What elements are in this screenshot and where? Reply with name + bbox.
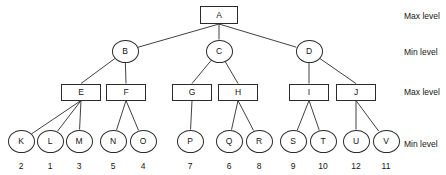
tree-node-label: J [354,88,358,97]
tree-node-label: T [320,137,325,146]
tree-edge-b-f [125,62,126,83]
tree-node-label: A [216,11,222,20]
tree-node-m: M [66,130,93,153]
tree-edge-a-d [219,24,296,47]
tree-edge-e-l [57,101,81,132]
tree-node-h: H [218,84,258,101]
tree-node-label: E [78,88,84,97]
tree-node-u: U [343,130,370,153]
tree-edge-c-h [225,61,238,83]
tree-edge-f-o [126,101,138,131]
leaf-value-u: 12 [342,162,370,171]
tree-node-label: D [306,47,312,56]
leaf-value-p: 7 [176,162,204,171]
tree-node-f: F [106,84,146,101]
tree-node-t: T [310,130,337,153]
leaf-value-s: 9 [279,162,307,171]
tree-node-k: K [8,130,35,153]
tree-node-c: C [206,40,233,63]
tree-edge-f-n [117,101,126,130]
tree-edge-h-q [232,101,238,130]
leaf-value-k: 2 [7,162,35,171]
tree-node-e: E [61,84,101,101]
tree-node-label: O [140,137,147,146]
tree-edge-b-e [81,59,115,84]
tree-node-label: P [187,137,193,146]
tree-node-d: D [296,40,323,63]
tree-edge-e-k [32,101,81,134]
leaf-value-v: 11 [372,162,400,171]
tree-edge-d-j [319,58,356,83]
tree-node-o: O [130,130,157,153]
tree-node-l: L [37,130,64,153]
level-label-1: Max level [404,12,440,21]
tree-node-v: V [373,130,400,153]
tree-node-label: I [308,88,310,97]
tree-node-label: R [256,137,262,146]
tree-node-b: B [112,40,139,63]
tree-node-label: S [290,137,296,146]
tree-node-label: V [383,137,389,146]
leaf-value-l: 1 [36,162,64,171]
tree-edge-i-t [309,101,319,130]
tree-node-n: N [100,130,127,153]
tree-edge-g-p [191,101,192,130]
tree-edge-h-r [238,101,254,131]
tree-node-label: K [18,137,24,146]
tree-edge-c-g [192,60,211,83]
tree-node-label: C [216,47,222,56]
tree-node-label: B [122,47,128,56]
tree-node-s: S [280,130,307,153]
tree-node-g: G [172,84,212,101]
tree-edge-a-b [138,24,219,47]
tree-node-label: G [189,88,196,97]
tree-node-label: F [123,88,128,97]
tree-edge-i-s [297,101,309,131]
level-label-4: Min level [404,140,438,149]
leaf-value-t: 10 [309,162,337,171]
tree-node-r: R [246,130,273,153]
level-label-2: Min level [404,48,438,57]
tree-node-j: J [336,84,376,101]
leaf-value-m: 3 [65,162,93,171]
tree-node-label: L [48,137,53,146]
tree-node-label: M [75,137,82,146]
tree-node-a: A [200,6,238,24]
tree-node-label: H [235,88,241,97]
tree-node-i: I [289,84,329,101]
min-max-heap-diagram: ABCDEFGHIJKLMNOPQRSTUV 213547689101211 M… [0,0,446,175]
tree-node-label: Q [226,137,233,146]
leaf-value-q: 6 [215,162,243,171]
level-label-3: Max level [404,88,440,97]
tree-node-q: Q [216,130,243,153]
tree-node-label: N [110,137,116,146]
leaf-value-n: 5 [99,162,127,171]
tree-node-label: U [353,137,359,146]
tree-edge-j-v [356,101,379,132]
tree-edge-e-m [80,101,81,130]
leaf-value-o: 4 [129,162,157,171]
leaf-value-r: 8 [245,162,273,171]
tree-node-p: P [177,130,204,153]
